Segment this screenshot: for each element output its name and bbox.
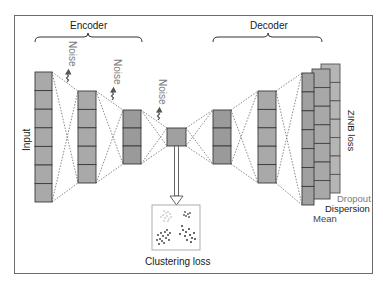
noise-label-3: Noise: [157, 79, 168, 105]
input-label: Input: [21, 129, 32, 151]
decoder-hidden-layer-2: [258, 91, 276, 183]
noise-icon-3: [157, 108, 162, 120]
autoencoder-diagram: [0, 0, 383, 288]
decoder-brace: [213, 33, 322, 42]
down-arrow-icon: [170, 146, 183, 205]
noise-label-2: Noise: [112, 59, 123, 85]
output-dispersion-layer: [312, 69, 330, 199]
encoder-hidden-layer-1: [78, 91, 96, 183]
encoder-label: Encoder: [70, 20, 107, 31]
noise-icon-1: [66, 70, 71, 82]
zinb-loss-label: ZINB loss: [346, 110, 357, 151]
clustering-loss-label: Clustering loss: [145, 256, 211, 267]
decoder-hidden-layer-1: [213, 110, 231, 164]
noise-icon-2: [111, 88, 116, 100]
decoder-label: Decoder: [250, 20, 288, 31]
bottleneck-layer: [167, 128, 186, 146]
cluster-scatter-image: [152, 205, 200, 250]
encoder-brace: [35, 33, 142, 42]
noise-label-1: Noise: [67, 41, 78, 67]
output-mean-layer: [302, 73, 314, 205]
mean-label: Mean: [313, 213, 337, 224]
input-layer: [35, 72, 52, 202]
encoder-hidden-layer-2: [123, 110, 141, 164]
